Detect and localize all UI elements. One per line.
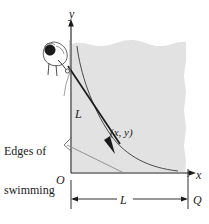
annotation-line-1: Edges of — [4, 145, 55, 158]
dimension-arrow-right-icon — [181, 197, 188, 202]
rope-length-label: L — [75, 108, 82, 121]
point-coordinates-label: (x, y) — [110, 127, 133, 139]
dimension-length-label: L — [120, 194, 127, 207]
swimming-pool-tractrix-figure: y x O Q L L (x, y) Edges of swimming poo… — [0, 0, 209, 224]
dimension-arrow-left-icon — [71, 197, 78, 202]
origin-label: O — [56, 174, 65, 187]
x-axis-label: x — [196, 169, 201, 182]
annotation-line-3: pool — [4, 223, 55, 224]
y-axis-label: y — [69, 8, 74, 21]
pool-edges-annotation: Edges of swimming pool — [4, 119, 55, 224]
annotation-line-2: swimming — [4, 184, 55, 197]
corner-point-label: Q — [193, 194, 202, 207]
